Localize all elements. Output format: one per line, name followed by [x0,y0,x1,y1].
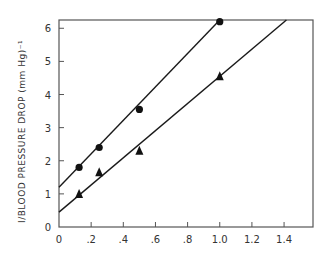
y-tick-label: 5 [45,56,51,67]
x-tick-label: .2 [86,234,96,245]
circle-marker [75,164,82,171]
plot-border [59,20,313,227]
circle-marker [216,18,223,25]
x-tick-label: 1.0 [212,234,228,245]
y-tick-label: 2 [45,156,51,167]
x-tick-label: 0 [56,234,62,245]
circle-marker [96,144,103,151]
x-tick-label: 1.2 [244,234,260,245]
x-tick-label: .6 [151,234,161,245]
y-tick-label: 3 [45,123,51,134]
triangles-fit-line [59,20,286,212]
circle-marker [136,106,143,113]
y-axis-title-text: I/BLOOD PRESSURE DROP (mm Hg)⁻¹ [17,40,27,223]
y-axis-title: I/BLOOD PRESSURE DROP (mm Hg)⁻¹ [17,40,27,223]
x-tick-label: 1.4 [276,234,292,245]
chart: I/BLOOD PRESSURE DROP (mm Hg)⁻¹ 0.2.4.6.… [0,0,332,259]
y-tick-label: 4 [45,90,51,101]
x-axis-ticks: 0.2.4.6.81.01.21.4 [56,222,292,245]
plot-frame [59,20,313,227]
data-markers [75,18,224,198]
y-tick-label: 0 [45,222,51,233]
y-axis-ticks: 0123456 [45,23,64,233]
y-tick-label: 6 [45,23,51,34]
y-tick-label: 1 [45,189,51,200]
x-tick-label: .4 [119,234,129,245]
circles-fit-line [59,20,220,187]
triangle-marker [216,71,224,80]
fit-lines [59,20,286,212]
x-tick-label: .8 [183,234,193,245]
triangle-marker [95,167,103,176]
